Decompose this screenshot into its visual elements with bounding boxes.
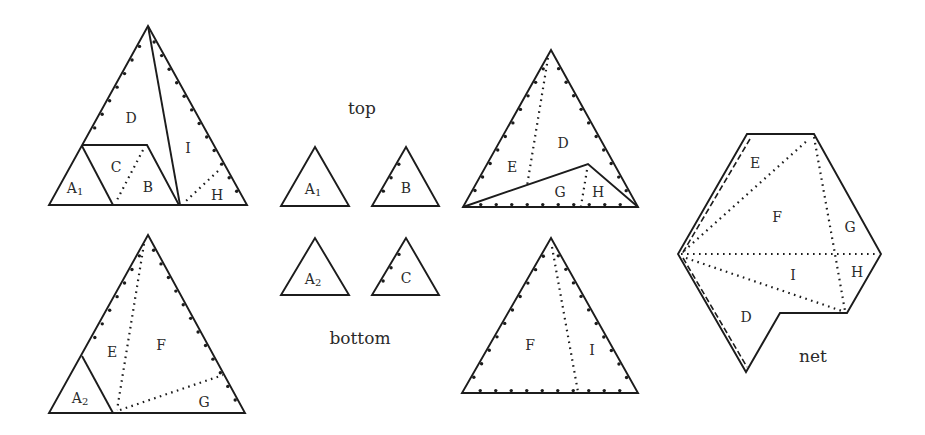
- label-i: I: [185, 140, 191, 156]
- outline: [462, 238, 638, 393]
- tick-dot: [564, 268, 567, 271]
- tick-dot: [481, 175, 484, 178]
- tick-dot: [526, 281, 529, 284]
- tick-dot: [496, 148, 499, 151]
- small-pieces: top A1 B A2 C bottom: [281, 98, 439, 348]
- fold-e-d: [527, 58, 548, 186]
- tick-dot: [525, 389, 528, 392]
- label-c: C: [401, 270, 412, 286]
- tick-dot: [189, 317, 192, 320]
- fold-c-b: [117, 150, 143, 200]
- tick-dot: [227, 176, 230, 179]
- label-h: H: [851, 264, 863, 280]
- tick-dot: [617, 175, 620, 178]
- tick-dot: [472, 375, 475, 378]
- caption-bottom: bottom: [329, 328, 390, 348]
- tick-dot: [603, 203, 606, 206]
- outline: [372, 238, 439, 295]
- tick-dot: [233, 398, 236, 401]
- tick-dot: [397, 163, 400, 166]
- tick-dot: [625, 376, 628, 379]
- piece-a1: A1: [281, 147, 349, 206]
- label-f: F: [156, 337, 166, 353]
- tick-dot: [495, 203, 498, 206]
- tick-dot: [167, 67, 170, 70]
- tick-dot: [518, 295, 521, 298]
- label-d: D: [557, 135, 568, 151]
- tick-dot: [504, 135, 507, 138]
- tick-dot: [617, 362, 620, 365]
- tick-dot: [526, 94, 529, 97]
- label-d: D: [740, 309, 751, 325]
- tick-dot: [542, 67, 545, 70]
- tick-dot: [123, 281, 126, 284]
- tick-dot: [556, 389, 559, 392]
- tick-dot: [100, 113, 103, 116]
- piece-b: B: [372, 147, 439, 206]
- tick-dot: [625, 189, 628, 192]
- tick-dot: [579, 108, 582, 111]
- tick-edge-bottom: [479, 389, 622, 392]
- tick-dot: [479, 389, 482, 392]
- tick-dot: [602, 148, 605, 151]
- label-i: I: [790, 267, 796, 283]
- tick-dot: [511, 121, 514, 124]
- tick-dot: [190, 108, 193, 111]
- tick-dot: [130, 58, 133, 61]
- fold-g-h: [581, 170, 587, 206]
- tick-dot: [211, 357, 214, 360]
- tick-dot: [480, 362, 483, 365]
- label-g: G: [554, 184, 565, 200]
- tick-dot: [595, 322, 598, 325]
- tick-dot: [175, 81, 178, 84]
- tick-dot: [534, 81, 537, 84]
- tick-dot: [587, 308, 590, 311]
- tick-dot: [495, 335, 498, 338]
- tick-dot: [226, 385, 229, 388]
- tick-dot: [138, 45, 141, 48]
- outline: [372, 147, 439, 206]
- label-a1: A1: [304, 181, 322, 198]
- tick-dot: [557, 203, 560, 206]
- diagram-canvas: D I C B A1 H E F A2 G top A1 B A2: [0, 0, 925, 435]
- tick-dot: [389, 266, 392, 269]
- a1-cut: [82, 146, 113, 205]
- tick-dot: [205, 135, 208, 138]
- caption-net: net: [799, 346, 827, 366]
- tick-edge-bottom: [479, 203, 622, 206]
- tick-dot: [494, 389, 497, 392]
- tick-dot: [572, 203, 575, 206]
- tick-dot: [130, 268, 133, 271]
- tick-edge-right: [557, 254, 629, 379]
- label-b: B: [143, 179, 153, 195]
- tick-edge-left: [382, 163, 401, 193]
- tick-dot: [123, 72, 126, 75]
- tick-dot: [602, 335, 605, 338]
- glue-edge-lower: [683, 258, 747, 367]
- tick-dot: [220, 162, 223, 165]
- tick-dot: [594, 135, 597, 138]
- label-b: B: [401, 180, 411, 196]
- tick-dot: [526, 203, 529, 206]
- tick-dot: [115, 295, 118, 298]
- tick-dot: [488, 349, 491, 352]
- tick-dot: [587, 121, 590, 124]
- tick-dot: [511, 308, 514, 311]
- label-e: E: [507, 159, 517, 175]
- tick-edge-left: [93, 254, 141, 339]
- label-g: G: [198, 394, 209, 410]
- tick-edge-right: [152, 249, 237, 402]
- tick-dot: [510, 203, 513, 206]
- tick-dot: [534, 268, 537, 271]
- tick-dot: [204, 344, 207, 347]
- tick-dot: [108, 309, 111, 312]
- dissection-diagram: D I C B A1 H E F A2 G top A1 B A2: [0, 0, 925, 435]
- tick-dot: [212, 149, 215, 152]
- label-a2: A2: [71, 390, 89, 407]
- top-original-triangle: D I C B A1 H: [49, 26, 247, 205]
- tick-dot: [557, 254, 560, 257]
- tick-dot: [541, 389, 544, 392]
- net-figure: E F G I H D net: [678, 134, 881, 372]
- tick-dot: [541, 203, 544, 206]
- tick-dot: [564, 81, 567, 84]
